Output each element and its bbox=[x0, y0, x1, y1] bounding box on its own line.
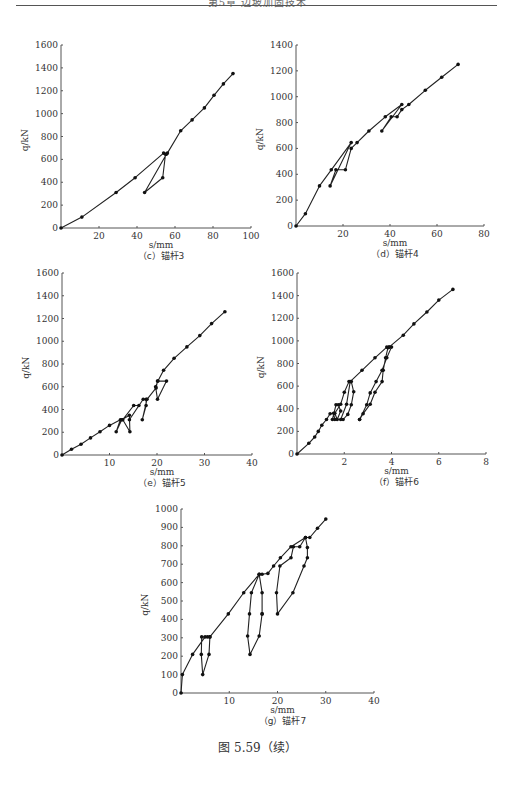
y-tick-label: 1000 bbox=[35, 109, 58, 119]
y-tick-label: 800 bbox=[161, 541, 178, 551]
data-point bbox=[207, 653, 211, 657]
y-tick-label: 900 bbox=[161, 522, 178, 532]
y-tick-label: 800 bbox=[41, 132, 58, 142]
data-point bbox=[80, 215, 84, 219]
y-axis-label: q/kN bbox=[255, 128, 265, 150]
data-point bbox=[162, 369, 166, 373]
data-point bbox=[373, 356, 377, 360]
figure-caption: 图 5.59（续） bbox=[0, 738, 515, 755]
subplot-caption: （c）锚杆3 bbox=[138, 250, 185, 261]
data-point bbox=[128, 430, 132, 434]
data-point bbox=[316, 527, 320, 531]
data-line bbox=[297, 289, 453, 454]
x-tick-label: 20 bbox=[337, 229, 349, 239]
data-point bbox=[89, 436, 93, 440]
x-axis-label: s/mm bbox=[150, 467, 175, 477]
x-tick-label: 100 bbox=[242, 231, 259, 241]
data-point bbox=[172, 357, 176, 361]
data-point bbox=[344, 168, 348, 172]
x-tick-label: 60 bbox=[431, 229, 443, 239]
data-point bbox=[304, 536, 308, 540]
data-point bbox=[156, 379, 160, 383]
data-point bbox=[325, 418, 329, 422]
data-line bbox=[296, 64, 458, 226]
data-point bbox=[440, 76, 444, 80]
y-tick-label: 1000 bbox=[36, 336, 59, 346]
y-tick-label: 1000 bbox=[155, 504, 178, 514]
x-axis-label: s/mm bbox=[383, 238, 408, 248]
data-point bbox=[179, 691, 183, 695]
data-point bbox=[335, 418, 339, 422]
data-point bbox=[298, 545, 302, 549]
y-tick-label: 400 bbox=[277, 404, 294, 414]
data-point bbox=[114, 430, 118, 434]
x-axis-label: s/mm bbox=[270, 705, 295, 715]
x-tick-label: 8 bbox=[483, 457, 489, 467]
chart-e: 0200400600800100012001400160010203040s/m… bbox=[21, 268, 258, 488]
data-point bbox=[345, 402, 349, 406]
data-point bbox=[133, 176, 137, 180]
data-point bbox=[181, 673, 185, 677]
data-point bbox=[212, 94, 216, 98]
data-point bbox=[222, 82, 226, 86]
data-point bbox=[59, 226, 63, 230]
data-point bbox=[179, 129, 183, 133]
y-tick-label: 200 bbox=[276, 195, 293, 205]
data-point bbox=[121, 418, 125, 422]
figure-charts: 0200400600800100012001400160020406080100… bbox=[0, 0, 515, 788]
y-tick-label: 0 bbox=[52, 223, 58, 233]
data-point bbox=[451, 288, 455, 292]
data-point bbox=[373, 391, 377, 395]
y-tick-label: 200 bbox=[277, 426, 294, 436]
y-tick-label: 600 bbox=[42, 382, 59, 392]
data-point bbox=[308, 536, 312, 540]
data-point bbox=[400, 108, 404, 112]
data-point bbox=[400, 103, 404, 107]
data-point bbox=[339, 418, 343, 422]
y-tick-label: 1200 bbox=[35, 86, 58, 96]
data-point bbox=[348, 380, 352, 384]
y-tick-label: 700 bbox=[161, 559, 178, 569]
y-tick-label: 1200 bbox=[270, 66, 293, 76]
y-axis-label: q/kN bbox=[256, 356, 266, 378]
chart-g: 0100200300400500600700800900100010203040… bbox=[140, 504, 380, 726]
chart-c: 0200400600800100012001400160020406080100… bbox=[20, 40, 260, 261]
data-point bbox=[384, 115, 388, 119]
x-tick-label: 40 bbox=[368, 696, 380, 706]
y-axis-label: q/kN bbox=[21, 356, 31, 378]
data-point bbox=[295, 452, 299, 456]
y-tick-label: 1200 bbox=[271, 313, 294, 323]
data-point bbox=[60, 453, 64, 457]
data-point bbox=[223, 310, 227, 314]
data-point bbox=[368, 391, 372, 395]
data-point bbox=[318, 184, 322, 188]
data-point bbox=[191, 653, 195, 657]
y-tick-label: 400 bbox=[161, 614, 178, 624]
x-tick-label: 40 bbox=[131, 231, 143, 241]
x-tick-label: 10 bbox=[104, 458, 116, 468]
y-tick-label: 800 bbox=[277, 359, 294, 369]
data-point bbox=[456, 63, 460, 67]
y-tick-label: 1600 bbox=[36, 268, 59, 278]
data-point bbox=[114, 191, 118, 195]
data-point bbox=[145, 398, 149, 402]
y-tick-label: 0 bbox=[172, 688, 178, 698]
subplot-caption: （d）锚杆4 bbox=[371, 248, 419, 259]
data-point bbox=[137, 404, 141, 408]
subplot-caption: （g）锚杆7 bbox=[259, 715, 306, 726]
y-tick-label: 1000 bbox=[270, 92, 293, 102]
data-point bbox=[334, 168, 338, 172]
x-tick-label: 80 bbox=[478, 229, 490, 239]
data-point bbox=[128, 413, 132, 417]
data-point bbox=[272, 564, 276, 568]
data-point bbox=[402, 333, 406, 337]
data-point bbox=[108, 424, 112, 428]
y-tick-label: 500 bbox=[161, 596, 178, 606]
y-tick-label: 1600 bbox=[35, 40, 58, 50]
y-tick-label: 200 bbox=[42, 427, 59, 437]
y-tick-label: 600 bbox=[41, 154, 58, 164]
data-point bbox=[307, 442, 311, 446]
data-point bbox=[320, 423, 324, 427]
data-point bbox=[128, 418, 132, 422]
data-point bbox=[395, 115, 399, 119]
